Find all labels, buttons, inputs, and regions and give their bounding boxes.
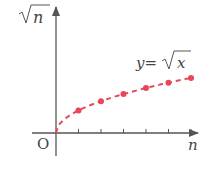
svg-text:y=: y= <box>135 54 157 72</box>
origin-label: O <box>37 135 49 153</box>
svg-text:n: n <box>33 8 43 27</box>
data-point <box>121 91 127 97</box>
data-point <box>98 98 104 104</box>
data-point <box>188 75 194 81</box>
data-point <box>76 108 82 114</box>
data-point <box>143 85 149 91</box>
sqrt-chart: O n n y= x <box>0 0 221 175</box>
svg-text:x: x <box>177 54 186 72</box>
x-axis-label: n <box>188 136 198 154</box>
data-point <box>166 80 172 86</box>
sqrt-curve <box>56 77 193 133</box>
y-axis-label: n <box>19 5 50 27</box>
curve-label: y= x <box>135 51 191 72</box>
